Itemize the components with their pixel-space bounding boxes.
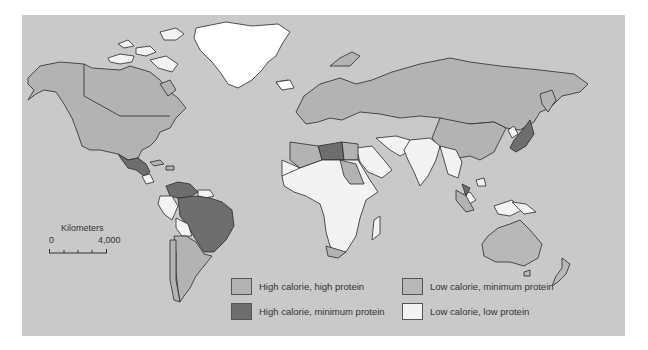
scale-title: Kilometers	[61, 223, 104, 233]
legend-item-low-calorie-minimum-protein: Low calorie, minimum protein	[402, 278, 554, 295]
legend-label: High calorie, minimum protein	[259, 306, 385, 317]
scale-min-label: 0	[49, 235, 54, 245]
world-map-frame: Kilometers 0 4,000 High calorie, high pr…	[22, 15, 625, 336]
mexico-central-america	[118, 154, 154, 184]
greenland	[194, 22, 292, 90]
arctic-islands	[108, 28, 184, 72]
scale-ruler	[49, 247, 129, 255]
legend-label: Low calorie, minimum protein	[430, 281, 554, 292]
sub-saharan-africa	[282, 160, 380, 258]
legend-item-low-calorie-low-protein: Low calorie, low protein	[402, 303, 529, 320]
legend-item-high-calorie-high-protein: High calorie, high protein	[231, 278, 364, 295]
legend-item-high-calorie-minimum-protein: High calorie, minimum protein	[231, 303, 385, 320]
legend-swatch	[402, 278, 423, 295]
scale-max-label: 4,000	[98, 235, 121, 245]
legend-label: High calorie, high protein	[259, 281, 364, 292]
middle-east-south-asia	[356, 136, 522, 216]
oceania	[482, 202, 570, 286]
caribbean	[150, 160, 174, 170]
legend-swatch	[402, 303, 423, 320]
north-america	[28, 62, 186, 160]
south-america	[158, 182, 234, 302]
legend-label: Low calorie, low protein	[430, 306, 529, 317]
legend-swatch	[231, 278, 252, 295]
iceland	[276, 80, 294, 90]
legend-swatch	[231, 303, 252, 320]
